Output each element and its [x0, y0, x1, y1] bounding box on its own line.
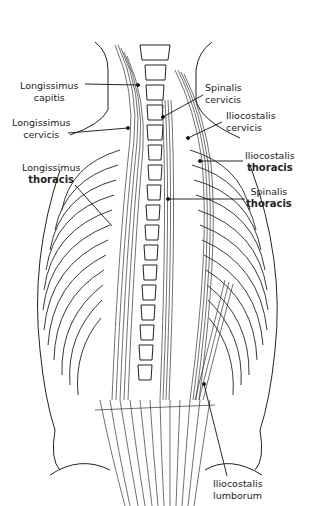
label-line: lumborum — [213, 490, 263, 502]
label-line: Iliocostalis — [213, 478, 263, 490]
label-line: thoracis — [22, 174, 80, 186]
label-spinalis-cervicis: Spinalis cervicis — [205, 82, 242, 106]
label-line: Longissimus — [20, 80, 78, 92]
back-muscles-illustration — [0, 0, 311, 506]
label-line: thoracis — [245, 162, 295, 174]
label-iliocostalis-thoracis: Iliocostalis thoracis — [245, 150, 295, 174]
label-spinalis-thoracis: Spinalis thoracis — [246, 186, 292, 210]
label-line: Longissimus — [12, 117, 70, 129]
label-iliocostalis-cervicis: Iliocostalis cervicis — [226, 110, 276, 134]
label-line: Iliocostalis — [245, 150, 295, 162]
label-line: Longissimus — [22, 162, 80, 174]
label-line: Spinalis — [205, 82, 242, 94]
label-line: cervicis — [226, 122, 276, 134]
label-line: Iliocostalis — [226, 110, 276, 122]
label-longissimus-capitis: Longissimus capitis — [20, 80, 78, 104]
label-line: Spinalis — [246, 186, 292, 198]
label-line: cervicis — [205, 94, 242, 106]
anatomy-figure: Longissimus capitis Longissimus cervicis… — [0, 0, 311, 506]
label-longissimus-thoracis: Longissimus thoracis — [22, 162, 80, 186]
label-iliocostalis-lumborum: Iliocostalis lumborum — [213, 478, 263, 502]
label-line: capitis — [20, 92, 78, 104]
label-line: thoracis — [246, 198, 292, 210]
label-longissimus-cervicis: Longissimus cervicis — [12, 117, 70, 141]
label-line: cervicis — [12, 129, 70, 141]
